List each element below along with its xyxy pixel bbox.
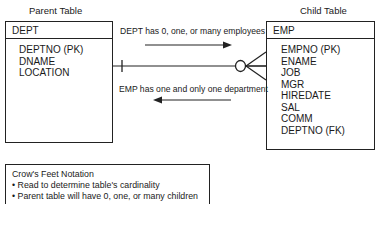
legend-bullet: • Read to determine table's cardinality xyxy=(12,180,209,191)
forward-arrow xyxy=(145,42,232,49)
backward-arrow xyxy=(153,97,231,104)
legend-box: Crow's Feet Notation • Read to determine… xyxy=(5,164,210,204)
crows-foot-zero-or-many-icon xyxy=(236,52,267,80)
legend-bullet: • Parent table will have 0, one, or many… xyxy=(12,191,209,202)
legend-title: Crow's Feet Notation xyxy=(12,169,209,180)
